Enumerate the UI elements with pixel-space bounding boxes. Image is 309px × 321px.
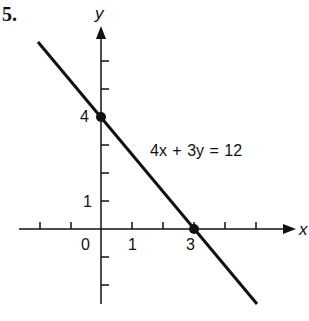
y-axis-label: y: [95, 5, 104, 22]
x-ticks: [40, 222, 256, 229]
problem-number: 5.: [2, 4, 17, 24]
y-tick-label-1: 1: [83, 194, 92, 210]
y-tick-label-4: 4: [80, 109, 89, 125]
equation-line: [38, 42, 257, 304]
x-axis-arrow-icon: [283, 224, 296, 234]
x-axis-label: x: [299, 221, 308, 238]
x-tick-label-0: 0: [81, 237, 90, 253]
plot-area: [0, 0, 309, 321]
x-intercept-point: [189, 224, 199, 234]
equation-text: 4x + 3y = 12: [150, 142, 242, 159]
x-tick-label-3: 3: [186, 237, 195, 253]
y-intercept-point: [96, 112, 106, 122]
equation-label: 4x + 3y = 12: [150, 143, 242, 159]
y-axis-arrow-icon: [96, 26, 106, 39]
y-ticks: [101, 61, 109, 285]
x-tick-label-1: 1: [128, 237, 137, 253]
graph-figure: 5. y x 4 1 0 1 3 4x + 3y = 12: [0, 0, 309, 321]
